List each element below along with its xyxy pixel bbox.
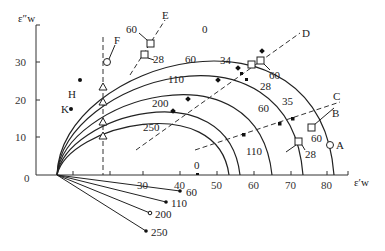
label-k: K — [61, 103, 69, 115]
line-d — [136, 33, 300, 150]
arc-label-200: 200 — [152, 97, 169, 109]
c-label-60: 60 — [258, 102, 270, 114]
d-label-34: 34 — [220, 54, 232, 66]
b-label-28: 28 — [305, 148, 317, 160]
e-label-60: 60 — [126, 23, 138, 35]
x-tick-50: 50 — [211, 179, 223, 191]
point-a-marker — [327, 142, 334, 149]
fan-label-200: 200 — [155, 208, 172, 220]
fan-marker-250 — [144, 229, 148, 233]
c-marker-110 — [242, 133, 246, 137]
label-a: A — [336, 139, 344, 151]
y-tick-30: 30 — [15, 56, 27, 68]
y-tick-20: 20 — [15, 94, 27, 106]
c-marker-60 — [278, 122, 282, 126]
point-f-marker — [104, 59, 111, 66]
b-square-60 — [308, 124, 315, 131]
x-tick-40: 40 — [174, 179, 186, 191]
c-label-110: 110 — [246, 145, 263, 157]
axes — [36, 25, 348, 175]
y-tick-10: 10 — [15, 131, 27, 143]
x-tick-80: 80 — [321, 179, 333, 191]
arc-label-0: 0 — [202, 23, 208, 35]
d-square-28 — [248, 61, 255, 68]
arc-label-110: 110 — [168, 73, 185, 85]
label-d: D — [302, 27, 310, 39]
e-label-28: 28 — [153, 53, 165, 65]
x-tick-60: 60 — [248, 179, 260, 191]
lower-fan-lines — [57, 175, 180, 231]
zero-mark-label: 0 — [194, 159, 200, 171]
label-e: E — [162, 9, 169, 21]
point-k-marker — [69, 107, 73, 111]
x-tick-30: 30 — [137, 179, 149, 191]
y-axis-label: ε″w — [18, 12, 35, 24]
arc-label-250: 250 — [143, 121, 160, 133]
fan-label-60: 60 — [186, 186, 198, 198]
d-label-28: 28 — [260, 80, 272, 92]
d-square-60 — [257, 57, 264, 64]
fan-label-110: 110 — [171, 197, 188, 209]
c-marker-35 — [291, 117, 295, 121]
fan-marker-200 — [148, 211, 152, 215]
e-square-28 — [141, 51, 148, 58]
arc-label-60: 60 — [185, 53, 197, 65]
x-axis-label: ε′w — [354, 176, 369, 188]
cole-cole-diagram: ε″w ε′w 0 10 20 30 30 40 50 60 70 80 0 6… — [0, 0, 385, 251]
point-h-marker — [78, 78, 82, 82]
x-tick-70: 70 — [285, 179, 297, 191]
origin-label: 0 — [24, 172, 30, 184]
e-square-60 — [147, 40, 154, 47]
label-h: H — [68, 88, 76, 100]
b-label-60: 60 — [311, 132, 323, 144]
fan-label-250: 250 — [151, 226, 168, 238]
fan-marker-60 — [178, 189, 182, 193]
b-square-28 — [295, 138, 302, 145]
fan-marker-110 — [164, 200, 168, 204]
label-f: F — [114, 34, 120, 46]
c-label-35: 35 — [282, 95, 294, 107]
label-c: C — [333, 90, 340, 102]
